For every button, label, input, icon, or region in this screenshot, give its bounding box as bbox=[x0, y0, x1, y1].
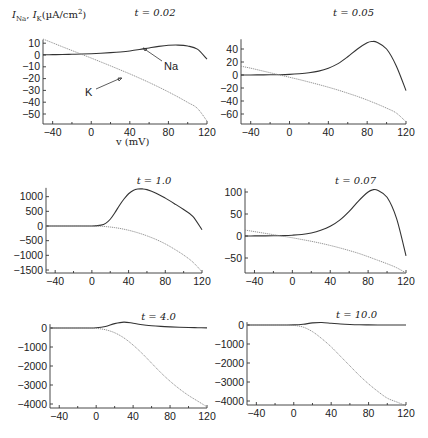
x-tick-label: 0 bbox=[88, 126, 94, 138]
x-tick-label: 120 bbox=[198, 410, 216, 422]
k-current-line bbox=[50, 328, 207, 407]
x-tick-label: −40 bbox=[246, 275, 264, 287]
axes bbox=[247, 322, 406, 405]
panel-title: t = 4.0 bbox=[141, 311, 176, 322]
panel-6: −40040801200−1000−2000−3000−4000t = 10.0 bbox=[215, 309, 415, 419]
na-current-line bbox=[46, 189, 202, 230]
x-tick-label: 40 bbox=[123, 275, 135, 287]
na-current-line bbox=[247, 323, 406, 325]
y-tick-label: −50 bbox=[22, 108, 40, 120]
x-tick-label: 80 bbox=[361, 126, 373, 138]
panel-5: −40040801200−1000−2000−3000−4000t = 4.0 bbox=[18, 311, 216, 422]
k-current-line bbox=[245, 230, 406, 273]
x-tick-label: −40 bbox=[242, 126, 260, 138]
panel-4: −4004080120100500−50t = 0.07 bbox=[224, 175, 415, 287]
x-tick-label: 0 bbox=[89, 275, 95, 287]
na-current-line bbox=[43, 45, 207, 59]
x-tick-label: 80 bbox=[362, 275, 374, 287]
x-tick-label: 0 bbox=[93, 410, 99, 422]
label-k: K bbox=[85, 86, 93, 98]
x-tick-label: 40 bbox=[325, 407, 337, 419]
y-tick-label: −10 bbox=[22, 60, 40, 72]
y-tick-label: −500 bbox=[19, 234, 43, 246]
x-tick-label: 40 bbox=[323, 126, 335, 138]
y-tick-label: 0 bbox=[34, 49, 40, 61]
x-tick-label: 40 bbox=[127, 410, 139, 422]
x-tick-label: 80 bbox=[159, 275, 171, 287]
y-tick-label: −60 bbox=[220, 108, 238, 120]
panel-title: t = 0.02 bbox=[134, 7, 175, 18]
axes bbox=[46, 188, 202, 273]
x-tick-label: 120 bbox=[198, 126, 216, 138]
y-tick-label: 0 bbox=[232, 69, 238, 81]
label-na: Na bbox=[164, 60, 179, 72]
y-tick-label: 20 bbox=[226, 56, 238, 68]
y-tick-label: −4000 bbox=[18, 398, 48, 410]
y-tick-label: 10 bbox=[28, 37, 40, 49]
y-tick-label: −20 bbox=[22, 72, 40, 84]
y-tick-label: −50 bbox=[224, 252, 242, 264]
x-tick-label: 80 bbox=[363, 407, 375, 419]
y-tick-label: −40 bbox=[220, 95, 238, 107]
y-tick-label: 50 bbox=[230, 208, 242, 220]
y-tick-label: 0 bbox=[41, 322, 47, 334]
k-current-line bbox=[247, 325, 406, 406]
y-tick-label: −1000 bbox=[14, 249, 44, 261]
x-tick-label: 120 bbox=[397, 126, 415, 138]
y-tick-label: −1000 bbox=[215, 338, 245, 350]
x-tick-label: −40 bbox=[50, 410, 68, 422]
na-current-line bbox=[50, 322, 207, 328]
panel-2: −400408012040200−20−40−60t = 0.05 bbox=[220, 7, 415, 138]
x-tick-label: 120 bbox=[397, 407, 415, 419]
k-current-line bbox=[46, 226, 202, 272]
axes bbox=[245, 188, 406, 273]
annotation-na: Na bbox=[143, 48, 179, 72]
na-current-line bbox=[241, 41, 406, 90]
x-tick-label: 0 bbox=[289, 275, 295, 287]
y-tick-label: 0 bbox=[236, 230, 242, 242]
panel-title: t = 1.0 bbox=[137, 175, 172, 186]
na-current-line bbox=[245, 189, 406, 255]
y-tick-label: 40 bbox=[226, 43, 238, 55]
x-tick-label: 120 bbox=[397, 275, 415, 287]
y-tick-label: 100 bbox=[224, 186, 242, 198]
y-axis-label: INa, IK(µA/cm2) bbox=[11, 8, 86, 23]
figure: INa, IK(µA/cm2) −4004080120100−10−20−30−… bbox=[0, 0, 428, 438]
x-tick-label: 0 bbox=[291, 407, 297, 419]
y-tick-label: −2000 bbox=[18, 360, 48, 372]
x-tick-label: 80 bbox=[164, 410, 176, 422]
x-tick-label: −40 bbox=[46, 275, 64, 287]
panel-title: t = 10.0 bbox=[336, 309, 378, 320]
x-tick-label: 40 bbox=[324, 275, 336, 287]
y-tick-label: −4000 bbox=[215, 395, 245, 407]
x-tick-label: 80 bbox=[163, 126, 175, 138]
x-tick-label: 0 bbox=[287, 126, 293, 138]
y-tick-label: −1000 bbox=[18, 341, 48, 353]
annotation-k: K bbox=[85, 78, 122, 98]
y-tick-label: −40 bbox=[22, 96, 40, 108]
y-tick-label: 1000 bbox=[20, 190, 44, 202]
x-axis-label: v (mV) bbox=[115, 136, 149, 147]
y-tick-label: −2000 bbox=[215, 357, 245, 369]
x-tick-label: −40 bbox=[247, 407, 265, 419]
y-tick-label: 500 bbox=[25, 205, 43, 217]
panel-title: t = 0.07 bbox=[335, 175, 377, 186]
axes bbox=[241, 39, 406, 124]
panel-title: t = 0.05 bbox=[333, 7, 374, 18]
y-tick-label: −3000 bbox=[18, 379, 48, 391]
axes bbox=[43, 40, 207, 124]
x-tick-label: 120 bbox=[193, 275, 211, 287]
axes bbox=[50, 324, 207, 408]
y-tick-label: −20 bbox=[220, 82, 238, 94]
y-tick-label: 0 bbox=[238, 319, 244, 331]
y-tick-label: −30 bbox=[22, 84, 40, 96]
panel-3: −400408012010005000−500−1000−1500t = 1.0 bbox=[14, 175, 211, 287]
panel-1: −4004080120100−10−20−30−40−50t = 0.02 bbox=[22, 7, 216, 138]
x-tick-label: −40 bbox=[44, 126, 62, 138]
y-tick-label: 0 bbox=[37, 220, 43, 232]
y-tick-label: −1500 bbox=[14, 264, 44, 276]
y-tick-label: −3000 bbox=[215, 376, 245, 388]
